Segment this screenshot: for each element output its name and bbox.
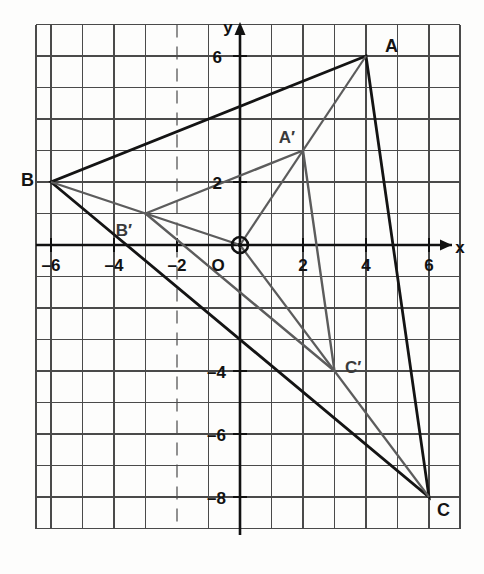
coordinate-plane-figure: x y –6 –4 –2 2 4 6 6 2 –4 –6 –8 O A B C …	[0, 0, 484, 574]
origin-label: O	[211, 256, 224, 275]
figure-page: x y –6 –4 –2 2 4 6 6 2 –4 –6 –8 O A B C …	[0, 0, 484, 574]
y-tick-label-2: 2	[213, 174, 222, 193]
x-tick-label--2: –2	[168, 256, 187, 275]
x-tick-label-6: 6	[424, 256, 433, 275]
y-tick-label--8: –8	[207, 489, 226, 508]
vertex-label-a: A	[385, 36, 398, 56]
x-tick-label--4: –4	[105, 256, 124, 275]
y-tick-label-6: 6	[213, 48, 222, 67]
y-tick-label--6: –6	[207, 426, 226, 445]
y-axis-label: y	[223, 18, 233, 37]
origin-dot-icon	[238, 243, 243, 248]
vertex-label-c: C	[437, 500, 450, 520]
x-tick-label-2: 2	[298, 256, 307, 275]
x-axis-arrowhead	[440, 240, 452, 251]
x-axis-label: x	[455, 238, 465, 257]
vertex-label-c-prime: C′	[345, 358, 361, 377]
y-tick-label--4: –4	[207, 363, 226, 382]
vertex-label-b: B	[21, 170, 34, 190]
vertex-label-a-prime: A′	[279, 128, 295, 147]
x-tick-label-4: 4	[361, 256, 371, 275]
vertex-label-b-prime: B′	[116, 221, 132, 240]
x-tick-label--6: –6	[42, 256, 61, 275]
